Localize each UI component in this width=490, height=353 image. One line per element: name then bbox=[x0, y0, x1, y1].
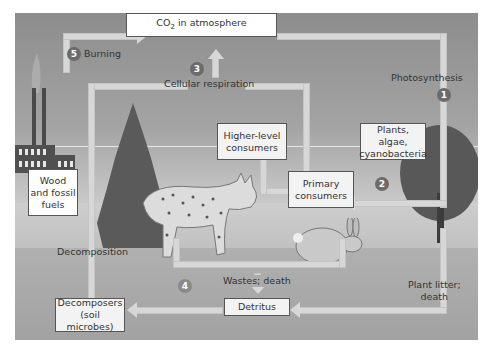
plant-litter-line1: Plant litter; bbox=[408, 279, 461, 291]
wood-line3: fuels bbox=[42, 199, 65, 211]
cellular-respiration-label: Cellular respiration bbox=[164, 78, 254, 90]
wastes-arrow-right-vertical bbox=[339, 238, 346, 268]
wood-fossil-fuels-box: Wood and fossil fuels bbox=[28, 169, 78, 216]
step-3-badge: 3 bbox=[190, 62, 204, 76]
decomposers-line2: (soil microbes) bbox=[56, 309, 124, 333]
respiration-up-arrow bbox=[212, 58, 219, 78]
decomposers-box: Decomposers (soil microbes) bbox=[55, 298, 125, 332]
decomposition-arrow-vertical bbox=[88, 83, 95, 315]
photosynthesis-arrow-horizontal bbox=[277, 33, 447, 40]
higher-consumers-line1: Higher-level bbox=[224, 130, 281, 142]
higher-consumers-box: Higher-level consumers bbox=[217, 123, 287, 160]
plants-line2: cyanobacteria bbox=[359, 148, 427, 160]
respiration-arrowhead bbox=[208, 49, 224, 59]
plant-litter-arrowhead bbox=[290, 302, 300, 318]
detritus-label: Detritus bbox=[238, 301, 276, 313]
atmosphere-text: CO2 in atmosphere bbox=[156, 17, 246, 33]
primary-line1: Primary bbox=[303, 178, 340, 190]
higher-consumers-line2: consumers bbox=[226, 142, 278, 154]
carbon-cycle-diagram: CO2 in atmosphere Higher-level consumers… bbox=[15, 13, 478, 340]
burning-label: Burning bbox=[84, 48, 121, 60]
photosynthesis-arrow-vertical bbox=[440, 33, 447, 208]
atmosphere-box: CO2 in atmosphere bbox=[126, 13, 277, 37]
detritus-box: Detritus bbox=[224, 298, 290, 316]
primary-consumers-box: Primary consumers bbox=[288, 171, 354, 208]
wastes-arrow-horizontal bbox=[173, 261, 346, 268]
co2-label: CO bbox=[156, 17, 170, 28]
decomposers-line1: Decomposers bbox=[58, 297, 123, 309]
photosynthesis-label: Photosynthesis bbox=[391, 72, 463, 84]
plants-box: Plants, algae, cyanobacteria bbox=[360, 123, 426, 160]
wood-line1: Wood bbox=[40, 175, 67, 187]
wood-line2: and fossil bbox=[30, 187, 75, 199]
primary-to-higher-arrow-v bbox=[260, 158, 267, 195]
plants-to-primary-arrow bbox=[353, 200, 447, 207]
decomposition-label: Decomposition bbox=[57, 246, 128, 258]
step-2-badge: 2 bbox=[375, 177, 389, 191]
atmosphere-label: in atmosphere bbox=[175, 17, 247, 28]
plant-litter-line2: death bbox=[408, 291, 461, 303]
plants-line1: Plants, algae, bbox=[361, 124, 425, 148]
detritus-to-decomposers-arrow bbox=[135, 307, 223, 314]
primary-line2: consumers bbox=[295, 190, 347, 202]
detritus-to-decomposers-arrowhead bbox=[127, 302, 137, 318]
respiration-arrow-horizontal-right bbox=[245, 83, 310, 90]
step-5-badge: 5 bbox=[67, 47, 81, 61]
plant-litter-label: Plant litter; death bbox=[408, 279, 461, 303]
step-1-badge: 1 bbox=[437, 88, 451, 102]
respiration-arrow-vertical-right bbox=[303, 83, 310, 183]
step-4-badge: 4 bbox=[178, 279, 192, 293]
wastes-death-label: Wastes; death bbox=[223, 275, 291, 287]
plant-litter-arrow-horizontal bbox=[298, 307, 447, 314]
lynx-icon bbox=[133, 173, 263, 268]
